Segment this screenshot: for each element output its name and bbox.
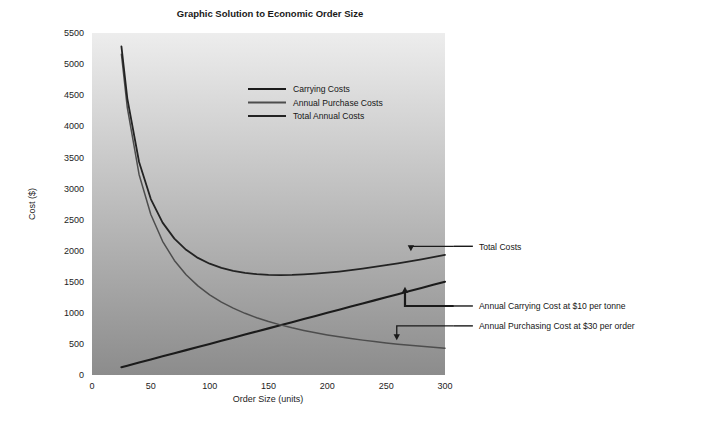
y-tick-label: 3500 (64, 153, 84, 163)
y-tick-label: 4000 (64, 121, 84, 131)
y-tick-label: 4500 (64, 90, 84, 100)
annotation-label-annual-carrying-cost: Annual Carrying Cost at $10 per tonne (479, 301, 626, 311)
chart-title: Graphic Solution to Economic Order Size (177, 8, 363, 19)
legend-label-1: Annual Purchase Costs (293, 98, 383, 108)
legend-label-0: Carrying Costs (293, 84, 350, 94)
x-tick-label: 100 (202, 381, 217, 391)
y-tick-label: 500 (69, 339, 84, 349)
x-tick-label: 300 (437, 381, 452, 391)
y-tick-label: 5500 (64, 28, 84, 38)
y-tick-label: 3000 (64, 184, 84, 194)
x-tick-label: 50 (146, 381, 156, 391)
y-tick-label: 0 (79, 370, 84, 380)
annotation-label-total-costs: Total Costs (479, 242, 522, 252)
y-tick-label: 5000 (64, 59, 84, 69)
x-tick-label: 0 (89, 381, 94, 391)
plot-area-background (92, 33, 445, 375)
x-tick-label: 200 (320, 381, 335, 391)
legend-label-2: Total Annual Costs (293, 111, 364, 121)
y-axis-label: Cost ($) (27, 188, 37, 220)
x-tick-label: 150 (261, 381, 276, 391)
annotation-label-annual-purchasing-cost: Annual Purchasing Cost at $30 per order (479, 321, 635, 331)
x-axis-label: Order Size (units) (233, 394, 304, 404)
y-tick-label: 2000 (64, 246, 84, 256)
x-tick-label: 250 (379, 381, 394, 391)
y-tick-label: 1500 (64, 277, 84, 287)
chart-figure: Graphic Solution to Economic Order Size … (0, 0, 708, 422)
y-tick-label: 2500 (64, 215, 84, 225)
y-tick-label: 1000 (64, 308, 84, 318)
